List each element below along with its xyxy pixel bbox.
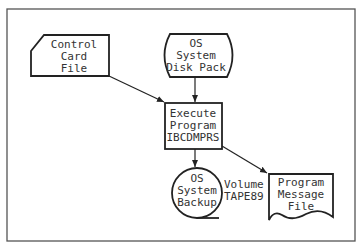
backup-line-3: Backup — [177, 196, 217, 209]
system-backup-tape-node: OS System Backup — [172, 168, 222, 218]
message-file-line-3: File — [288, 200, 315, 213]
execute-line-3: IBCDMPRS — [167, 131, 220, 144]
svg-text:Backup: Backup — [177, 196, 217, 209]
control-card-file-node: Control Card File — [31, 35, 109, 76]
volume-id: TAPE89 — [224, 190, 264, 203]
volume-annotation: Volume TAPE89 — [224, 178, 264, 203]
edge-control-card-to-execute — [109, 76, 164, 102]
disk-pack-line-3: Disk Pack — [166, 61, 226, 74]
disk-pack-node: OS System Disk Pack — [165, 34, 233, 77]
svg-text:File: File — [288, 200, 315, 213]
flowchart-diagram: Control Card File OS System Disk Pack Ex… — [0, 0, 362, 247]
execute-program-node: Execute Program IBCDMPRS — [165, 103, 222, 149]
svg-text:TAPE89: TAPE89 — [224, 190, 264, 203]
edge-execute-to-message-file — [222, 146, 267, 173]
program-message-file-node: Program Message File — [269, 174, 333, 220]
control-card-line-3: File — [61, 62, 88, 75]
svg-text:IBCDMPRS: IBCDMPRS — [167, 131, 220, 144]
svg-text:Disk Pack: Disk Pack — [166, 61, 226, 74]
svg-text:File: File — [61, 62, 88, 75]
